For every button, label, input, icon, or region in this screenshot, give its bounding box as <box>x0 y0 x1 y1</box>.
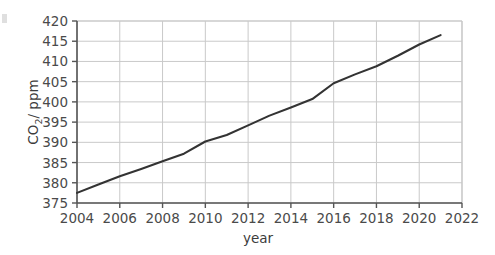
y-tick-label: 385 <box>42 155 68 171</box>
x-tick-label: 2014 <box>274 210 308 226</box>
x-tick-label: 2010 <box>188 210 222 226</box>
x-tick-label: 2018 <box>359 210 393 226</box>
y-axis-title-base: CO <box>25 125 41 145</box>
y-tick-label: 395 <box>42 114 68 130</box>
x-tick-label: 2016 <box>316 210 350 226</box>
svg-text:CO2/ ppm: CO2/ ppm <box>25 79 44 144</box>
x-tick-label: 2012 <box>231 210 265 226</box>
grid-lines <box>77 21 462 203</box>
y-tick-label: 405 <box>42 74 68 90</box>
co2-data-line <box>77 35 441 193</box>
y-tick-label: 390 <box>42 134 68 150</box>
y-axis-tick-labels: 375380385390395400405410415420 <box>42 13 68 211</box>
y-tick-label: 400 <box>42 94 68 110</box>
y-axis-title-rest: / ppm <box>25 79 41 118</box>
axis-lines <box>77 21 462 203</box>
y-tick-label: 375 <box>42 195 68 211</box>
x-tick-label: 2008 <box>145 210 179 226</box>
x-tick-label: 2006 <box>103 210 137 226</box>
x-tick-label: 2020 <box>402 210 436 226</box>
chart-svg: 375380385390395400405410415420 200420062… <box>0 0 495 255</box>
y-tick-label: 415 <box>42 33 68 49</box>
y-tick-label: 420 <box>42 13 68 29</box>
x-axis-title: year <box>243 230 274 246</box>
y-tick-label: 380 <box>42 175 68 191</box>
x-tick-label: 2022 <box>445 210 479 226</box>
y-tick-label: 410 <box>42 53 68 69</box>
x-axis-tick-labels: 2004200620082010201220142016201820202022 <box>60 210 479 226</box>
co2-line-chart-figure: 375380385390395400405410415420 200420062… <box>0 0 495 255</box>
x-tick-label: 2004 <box>60 210 94 226</box>
y-axis-title: CO2/ ppm <box>25 79 44 144</box>
